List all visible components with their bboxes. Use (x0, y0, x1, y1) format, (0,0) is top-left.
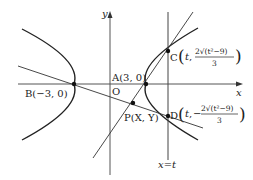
x-axis-arrow-icon (236, 82, 243, 87)
svg-text:(: ( (178, 104, 185, 124)
svg-text:,: , (189, 51, 192, 62)
svg-text:): ) (239, 104, 246, 124)
svg-text:(: ( (178, 46, 185, 66)
x-axis-label: x (236, 87, 242, 98)
svg-text:C: C (170, 52, 178, 63)
svg-text:3: 3 (212, 59, 217, 68)
point-P (131, 101, 135, 105)
svg-text:2√(t²−9): 2√(t²−9) (201, 104, 234, 113)
point-P-label: P(X, Y) (124, 112, 159, 123)
line-x-eq-t-label: x=t (158, 159, 177, 170)
svg-text:D: D (170, 110, 178, 121)
svg-text:3: 3 (217, 116, 222, 125)
svg-text:2√(t²−9): 2√(t²−9) (195, 47, 228, 56)
point-B (72, 82, 76, 86)
point-D-label: D ( t , − 2√(t²−9) 3 ) (170, 104, 246, 125)
point-A-label: A(3, 0) (111, 72, 146, 83)
svg-text:,: , (189, 108, 192, 119)
svg-text:): ) (235, 46, 242, 66)
origin-label: O (112, 86, 120, 97)
line-AC (93, 12, 193, 158)
y-axis-label: y (101, 8, 108, 19)
y-axis-arrow-icon (108, 11, 113, 18)
point-C-label: C ( t , 2√(t²−9) 3 ) (170, 46, 242, 68)
hyperbola-diagram: y x O A(3, 0) B(−3, 0) P(X, Y) C ( t , 2… (0, 0, 253, 180)
point-B-label: B(−3, 0) (25, 88, 68, 99)
